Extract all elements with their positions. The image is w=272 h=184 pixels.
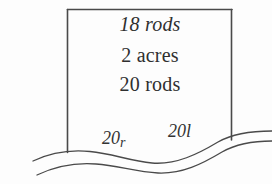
frontage-label-left: 20r [102, 129, 125, 147]
river-bank-upper [33, 131, 272, 163]
river-banks [33, 131, 272, 175]
frontage-right-value: 20 [168, 121, 186, 141]
frontage-label-right: 20l [168, 122, 191, 140]
frontage-left-unit: r [120, 135, 125, 150]
parcel-boundary [68, 10, 233, 153]
plat-linework [0, 0, 272, 184]
frontage-right-unit: l [186, 121, 191, 141]
river-bank-lower [37, 141, 272, 175]
frontage-left-value: 20 [102, 128, 120, 148]
survey-plat-figure: 18 rods 2 acres 20 rods 20r 20l [0, 0, 272, 184]
